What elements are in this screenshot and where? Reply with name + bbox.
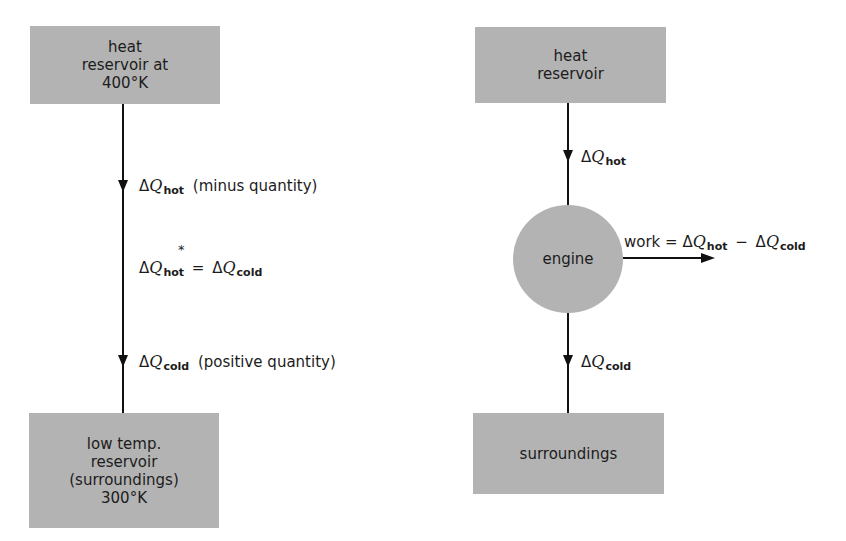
arrow-down-icon	[563, 355, 573, 367]
hot-reservoir-box-right: heat reservoir	[475, 27, 666, 103]
hot-box-line: 400°K	[102, 74, 148, 92]
arrow-down-icon	[118, 355, 128, 367]
label-delta-q-cold-right: ΔQcold	[581, 352, 631, 371]
arrow-right-icon	[701, 253, 715, 263]
label-delta-q-hot-right: ΔQhot	[581, 147, 626, 166]
delta-symbol: Δ	[581, 353, 591, 371]
delta-symbol: Δ	[139, 259, 149, 277]
cold-box-line: 300°K	[101, 489, 147, 507]
subscript: cold	[605, 360, 631, 373]
hot-box-line: reservoir at	[82, 56, 169, 74]
surroundings-box-right: surroundings	[473, 413, 664, 494]
cold-box-line: surroundings	[520, 445, 618, 463]
arrow-down-icon	[563, 150, 573, 162]
equals-sign: =	[192, 259, 205, 277]
subscript: hot	[163, 184, 184, 197]
label-delta-q-hot-left: ΔQhot (minus quantity)	[139, 176, 317, 195]
q-symbol: Q	[591, 147, 604, 166]
subscript: cold	[237, 266, 263, 279]
hot-box-line: heat	[108, 38, 142, 56]
q-symbol: Q	[591, 352, 604, 371]
label-note: (positive quantity)	[198, 353, 336, 371]
hot-reservoir-box-left: heat reservoir at 400°K	[30, 26, 220, 104]
delta-symbol: Δ	[682, 233, 692, 251]
arrow-down-icon	[118, 180, 128, 192]
asterisk: *	[178, 242, 185, 257]
minus-sign: −	[735, 233, 748, 251]
subscript: hot	[707, 240, 728, 253]
cold-reservoir-box-left: low temp. reservoir (surroundings) 300°K	[29, 413, 219, 528]
q-symbol: Q	[149, 258, 162, 277]
delta-symbol: Δ	[581, 148, 591, 166]
delta-symbol: Δ	[756, 233, 766, 251]
work-prefix: work =	[624, 233, 678, 251]
label-note: (minus quantity)	[193, 177, 318, 195]
cold-box-line: low temp.	[87, 435, 161, 453]
q-symbol: Q	[149, 352, 162, 371]
subscript: hot	[163, 266, 184, 279]
delta-symbol: Δ	[212, 259, 222, 277]
subscript: hot	[605, 155, 626, 168]
cold-box-line: reservoir	[91, 453, 158, 471]
q-symbol: Q	[149, 176, 162, 195]
label-delta-q-cold-left: ΔQcold (positive quantity)	[139, 352, 336, 371]
engine-node: engine	[513, 205, 623, 313]
q-symbol: Q	[222, 258, 235, 277]
hot-box-line: heat	[554, 47, 588, 65]
cold-box-line: (surroundings)	[69, 471, 179, 489]
engine-label: engine	[542, 250, 593, 268]
label-work: work = ΔQhot − ΔQcold	[624, 232, 806, 251]
work-line	[623, 257, 703, 259]
hot-box-line: reservoir	[537, 65, 604, 83]
delta-symbol: Δ	[139, 353, 149, 371]
q-symbol: Q	[766, 232, 779, 251]
subscript: cold	[780, 240, 806, 253]
delta-symbol: Δ	[139, 177, 149, 195]
label-equality: * ΔQhot = ΔQcold	[139, 258, 262, 277]
q-symbol: Q	[693, 232, 706, 251]
subscript: cold	[163, 360, 189, 373]
